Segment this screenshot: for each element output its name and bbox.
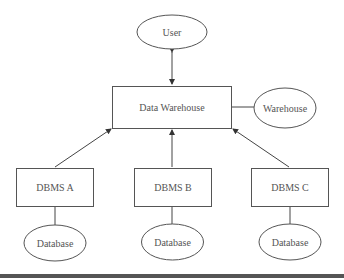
edge-dbmsc-dw bbox=[233, 129, 289, 167]
node-database-a-label: Database bbox=[37, 238, 74, 249]
node-dbms-a: DBMS A bbox=[17, 169, 94, 207]
node-database-c: Database bbox=[259, 224, 321, 260]
node-dbms-c: DBMS C bbox=[252, 169, 329, 207]
node-dbms-c-label: DBMS C bbox=[271, 182, 309, 193]
node-database-c-label: Database bbox=[272, 237, 309, 248]
node-data-warehouse: Data Warehouse bbox=[113, 87, 232, 129]
node-dbms-b-label: DBMS B bbox=[154, 182, 192, 193]
node-data-warehouse-label: Data Warehouse bbox=[139, 102, 205, 113]
node-database-b-label: Database bbox=[154, 237, 191, 248]
node-warehouse-label: Warehouse bbox=[263, 103, 308, 114]
node-database-a: Database bbox=[24, 225, 86, 261]
edge-dbmsa-dw bbox=[55, 129, 111, 167]
node-dbms-a-label: DBMS A bbox=[36, 182, 74, 193]
diagram-canvas: User Data Warehouse Warehouse DBMS A DBM… bbox=[0, 0, 344, 280]
node-user-label: User bbox=[163, 27, 183, 38]
node-database-b: Database bbox=[142, 224, 204, 260]
node-user: User bbox=[137, 15, 207, 49]
node-warehouse: Warehouse bbox=[254, 88, 316, 128]
node-dbms-b: DBMS B bbox=[135, 169, 212, 207]
bottom-rule bbox=[0, 274, 344, 278]
